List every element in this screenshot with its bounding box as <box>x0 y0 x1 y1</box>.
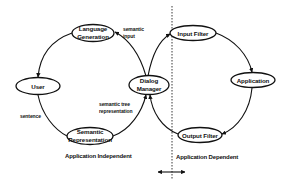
node-application-label: Application <box>237 77 270 84</box>
node-input-filter-label: Input Filter <box>178 30 209 37</box>
edge-label-semantic-input-line1: semantic <box>123 26 144 32</box>
edge-user-to-semantic-representation <box>38 95 67 136</box>
edge-language-generation-to-user <box>38 33 72 77</box>
edge-dialog-manager-to-input-filter <box>148 34 170 76</box>
edge-label-semantic-tree-line1: semantic tree <box>99 101 130 107</box>
node-dialog-manager: Dialog Manager <box>129 76 169 95</box>
node-dialog-manager-line1: Dialog <box>140 77 159 84</box>
node-semantic-representation-line1: Semantic <box>77 128 104 135</box>
edge-dialog-manager-to-language-generation <box>115 32 146 76</box>
edge-input-filter-to-application <box>216 33 252 72</box>
edge-label-sentence: sentence <box>20 113 41 119</box>
edge-application-to-output-filter <box>222 88 252 134</box>
region-label-application-dependent: Application Dependent <box>176 154 238 160</box>
node-language-generation: Language Generation <box>72 25 114 42</box>
node-user: User <box>16 78 60 95</box>
edge-label-semantic-tree-line2: representation <box>99 108 132 114</box>
edge-label-semantic-input-line2: input <box>123 33 135 39</box>
node-language-generation-line1: Language <box>79 25 108 32</box>
node-dialog-manager-line2: Manager <box>137 85 162 92</box>
dialog-system-architecture-diagram: Language Generation User Dialog Manager … <box>0 0 287 184</box>
edge-output-filter-to-dialog-manager <box>150 95 178 134</box>
node-user-label: User <box>31 83 45 90</box>
node-semantic-representation: Semantic Representation <box>67 128 113 145</box>
node-language-generation-line2: Generation <box>77 33 109 40</box>
region-label-application-independent: Application Independent <box>65 153 132 159</box>
node-output-filter-label: Output Filter <box>182 132 219 139</box>
node-semantic-representation-line2: Representation <box>68 136 112 143</box>
node-application: Application <box>231 73 275 88</box>
node-output-filter: Output Filter <box>178 128 222 143</box>
node-input-filter: Input Filter <box>170 26 216 41</box>
